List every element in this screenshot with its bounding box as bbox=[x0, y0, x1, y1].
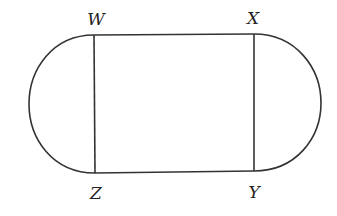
left-semicircle bbox=[29, 35, 95, 173]
segment-wx bbox=[94, 34, 254, 35]
diagram-canvas bbox=[0, 0, 337, 216]
stadium-diagram: W X Y Z bbox=[0, 0, 337, 216]
segment-zy bbox=[95, 171, 254, 173]
vertex-label-w: W bbox=[87, 11, 104, 28]
vertex-label-z: Z bbox=[90, 185, 102, 202]
right-semicircle bbox=[254, 34, 321, 171]
vertex-label-x: X bbox=[247, 10, 259, 27]
vertex-label-y: Y bbox=[248, 184, 259, 201]
segment-wz bbox=[94, 35, 95, 173]
